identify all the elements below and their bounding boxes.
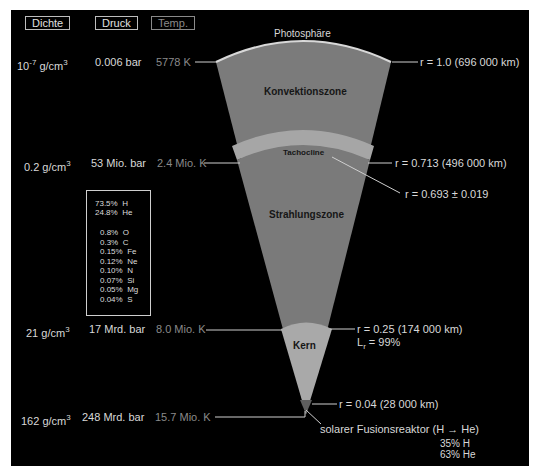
surface-pressure: 0.006 bar bbox=[95, 56, 141, 69]
composition-mg: 0.05% Mg bbox=[100, 285, 138, 295]
composition-si: 0.07% Si bbox=[100, 276, 134, 286]
fusion-reactor-label: solarer Fusionsreaktor (H → He) bbox=[320, 423, 479, 436]
tachocline-radius-inner: r = 0.693 ± 0.019 bbox=[405, 188, 488, 201]
header-density: Dichte bbox=[25, 16, 70, 30]
surface-temperature: 5778 K bbox=[156, 56, 191, 69]
core-radius: r = 0.25 (174 000 km) bbox=[357, 323, 462, 336]
center-density: 162 g/cm3 bbox=[21, 411, 71, 428]
sun-wedge-diagram bbox=[0, 0, 534, 474]
radiation-zone-label: Strahlungszone bbox=[269, 209, 344, 220]
composition-fe: 0.15% Fe bbox=[100, 247, 136, 257]
photosphere-label: Photosphäre bbox=[274, 27, 331, 40]
center-temperature: 15.7 Mio. K bbox=[155, 411, 211, 424]
composition-he: 24.8% He bbox=[95, 208, 132, 218]
tachocline-pressure: 53 Mio. bar bbox=[91, 157, 146, 170]
header-pressure: Druck bbox=[95, 16, 138, 30]
tachocline-temperature: 2.4 Mio. K bbox=[157, 157, 207, 170]
center-pressure: 248 Mrd. bar bbox=[82, 411, 144, 424]
tachocline-label: Tachocline bbox=[283, 148, 324, 157]
core-luminosity: Lr = 99% bbox=[357, 336, 400, 353]
fusion-radius: r = 0.04 (28 000 km) bbox=[339, 398, 438, 411]
leader-reactor bbox=[306, 410, 321, 424]
composition-n: 0.10% N bbox=[100, 266, 133, 276]
composition-ne: 0.12% Ne bbox=[100, 257, 137, 267]
header-temperature: Temp. bbox=[151, 16, 195, 30]
core-pressure: 17 Mrd. bar bbox=[89, 323, 145, 336]
reactor-helium: 63% He bbox=[440, 448, 476, 461]
core-temperature: 8.0 Mio. K bbox=[156, 323, 206, 336]
composition-o: 0.8% O bbox=[100, 228, 129, 238]
surface-radius: r = 1.0 (696 000 km) bbox=[420, 56, 519, 69]
core-density: 21 g/cm3 bbox=[26, 323, 70, 340]
fusion-core-shape bbox=[300, 400, 312, 414]
core-label: Kern bbox=[293, 340, 316, 351]
tachocline-density: 0.2 g/cm3 bbox=[24, 157, 71, 174]
composition-s: 0.04% S bbox=[100, 295, 132, 305]
tachocline-radius-outer: r = 0.713 (496 000 km) bbox=[395, 157, 507, 170]
surface-density: 10-7 g/cm3 bbox=[17, 56, 68, 73]
convection-zone-label: Konvektionszone bbox=[264, 86, 347, 97]
composition-c: 0.3% C bbox=[100, 238, 128, 248]
